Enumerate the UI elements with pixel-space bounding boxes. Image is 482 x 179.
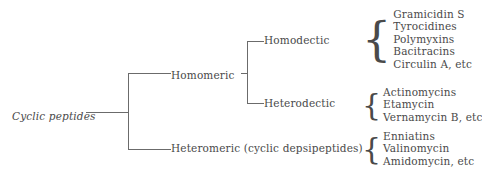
node-homodectic: Homodectic: [264, 34, 330, 46]
scan-artifact-top: [0, 0, 300, 5]
leaf-item: Gramicidin S: [393, 8, 472, 20]
leaf-item: Enniatins: [383, 130, 474, 142]
leaf-item: Amidomycin, etc: [383, 155, 474, 167]
leaf-group-heteromeric: { Enniatins Valinomycin Amidomycin, etc: [362, 130, 474, 167]
node-heterodectic: Heterodectic: [264, 97, 335, 109]
leaf-item: Actinomycins: [383, 86, 482, 98]
node-homomeric: Homomeric: [171, 69, 235, 81]
node-cyclic-peptides: Cyclic peptides: [12, 110, 96, 122]
leaf-item: Valinomycin: [383, 142, 474, 154]
leaf-item: Etamycin: [383, 98, 482, 110]
leaf-list-heterodectic: Actinomycins Etamycin Vernamycin B, etc: [383, 86, 482, 123]
leaf-group-heterodectic: { Actinomycins Etamycin Vernamycin B, et…: [362, 86, 482, 123]
leaf-list-heteromeric: Enniatins Valinomycin Amidomycin, etc: [383, 130, 474, 167]
node-heteromeric: Heteromeric (cyclic depsipeptides): [171, 142, 363, 154]
leaf-item: Tyrocidines: [393, 20, 472, 32]
leaf-item: Vernamycin B, etc: [383, 111, 482, 123]
leaf-item: Polymyxins: [393, 33, 472, 45]
leaf-item: Circulin A, etc: [393, 58, 472, 70]
leaf-group-homodectic: { Gramicidin S Tyrocidines Polymyxins Ba…: [362, 8, 472, 70]
leaf-item: Bacitracins: [393, 45, 472, 57]
leaf-list-homodectic: Gramicidin S Tyrocidines Polymyxins Baci…: [393, 8, 472, 70]
